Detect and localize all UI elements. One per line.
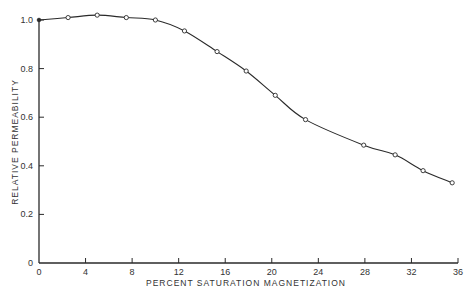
x-tick-label: 20 [267,267,277,277]
y-tick-label: 0.8 [20,64,33,74]
y-tick-label: 0.4 [20,161,33,171]
data-point-marker [450,181,454,185]
x-tick-label: 32 [406,267,416,277]
y-axis-title: RELATIVE PERMEABILITY [10,79,20,205]
data-point-marker [215,49,219,53]
x-tick-label: 0 [36,267,41,277]
data-point-marker [124,15,128,19]
x-tick-label: 24 [313,267,323,277]
x-axis-title: PERCENT SATURATION MAGNETIZATION [146,278,346,288]
y-tick-label: 0.2 [20,209,33,219]
x-tick-label: 12 [174,267,184,277]
data-point-marker [244,69,248,73]
y-tick-label: 0 [28,258,33,268]
data-series [37,13,454,185]
data-point-marker [153,18,157,22]
x-tick-label: 8 [130,267,135,277]
data-point-marker [362,143,366,147]
y-tick-label: 0.6 [20,112,33,122]
data-point-marker [393,153,397,157]
y-axis: 00.20.40.60.81.0 [20,15,44,268]
data-point-marker [182,29,186,33]
data-point-marker [421,169,425,173]
x-axis: 04812162024283236 [36,258,463,277]
data-point-marker [303,118,307,122]
data-point-marker [273,93,277,97]
x-tick-label: 28 [360,267,370,277]
permeability-chart: 00.20.40.60.81.0 04812162024283236 PERCE… [0,0,475,301]
data-point-marker [95,13,99,17]
x-tick-label: 4 [83,267,88,277]
data-line [39,15,452,183]
data-point-marker [37,18,41,22]
x-tick-label: 36 [453,267,463,277]
y-tick-label: 1.0 [20,15,33,25]
x-tick-label: 16 [220,267,230,277]
data-point-marker [66,15,70,19]
